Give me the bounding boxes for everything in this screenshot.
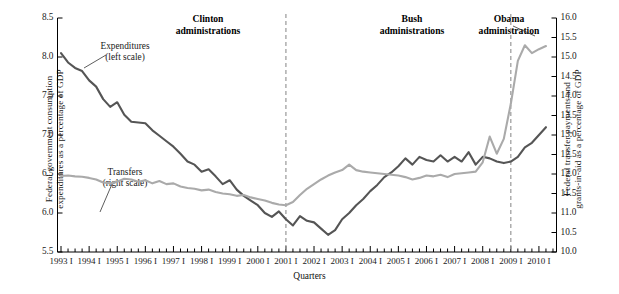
right-tick-label: 13.0	[561, 129, 591, 139]
right-tick-label: 10.5	[561, 227, 591, 237]
era-divider-lines	[286, 14, 535, 252]
plot-canvas	[0, 0, 619, 294]
right-tick-label: 12.5	[561, 149, 591, 159]
left-tick-label: 7.5	[28, 90, 54, 100]
right-tick-label: 12.0	[561, 168, 591, 178]
right-tick-label: 15.5	[561, 32, 591, 42]
series-line-expenditures	[61, 53, 546, 235]
left-tick-label: 7.0	[28, 129, 54, 139]
right-axis-ticks	[552, 18, 557, 252]
left-tick-label: 5.5	[28, 246, 54, 256]
data-series-lines	[61, 45, 546, 235]
chart-figure: Federal government consumption expenditu…	[0, 0, 619, 294]
right-tick-label: 14.0	[561, 90, 591, 100]
left-tick-label: 8.5	[28, 12, 54, 22]
right-tick-label: 11.5	[561, 188, 591, 198]
right-tick-label: 16.0	[561, 12, 591, 22]
right-tick-label: 10.0	[561, 246, 591, 256]
left-tick-label: 8.0	[28, 51, 54, 61]
x-tick-label: 2010 I	[519, 256, 559, 266]
left-tick-label: 6.5	[28, 168, 54, 178]
right-tick-label: 15.0	[561, 51, 591, 61]
right-tick-label: 11.0	[561, 207, 591, 217]
left-tick-label: 6.0	[28, 207, 54, 217]
right-tick-label: 14.5	[561, 71, 591, 81]
axis-spines	[58, 18, 557, 252]
right-tick-label: 13.5	[561, 110, 591, 120]
series-line-transfers	[61, 45, 546, 205]
x-axis-ticks	[61, 246, 553, 252]
